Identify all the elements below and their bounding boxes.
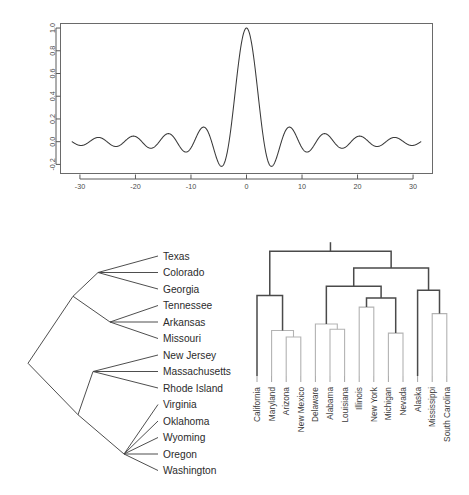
dendrogram-link (359, 307, 374, 376)
phylogram-internal-branch (78, 415, 124, 454)
phylogram-tip-labels: TexasColoradoGeorgiaTennesseeArkansasMis… (163, 251, 231, 477)
phylogram-tip-branch (110, 322, 158, 339)
phylogram-branches (28, 256, 158, 471)
dendrogram-leaf-label: Arizona (281, 387, 291, 416)
phylogram-tip-label: Virginia (163, 399, 197, 410)
phylogram-tip-label: New Jersey (163, 350, 217, 361)
dendrogram-leaf-label: Michigan (383, 387, 393, 421)
sinc-x-axis: -30-20-100102030 (75, 175, 417, 191)
sinc-x-tick-label: 20 (354, 182, 362, 191)
sinc-y-axis: -0.20.00.20.40.60.81.0 (48, 23, 61, 171)
dendrogram-leaf-label: Louisiana (340, 387, 350, 423)
dendrogram-link (418, 290, 440, 376)
phylogram-tip-label: Wyoming (163, 432, 206, 443)
dendrogram-leaf-label: Illinois (354, 387, 364, 410)
phylogram-tip-label: Oklahoma (163, 416, 210, 427)
sinc-plot-svg: -0.20.00.20.40.60.81.0 -30-20-100102030 (0, 0, 469, 215)
phylogram-internal-branch (73, 296, 110, 322)
phylogram-tip-label: Rhode Island (163, 383, 223, 394)
phylogram-tip-label: Tennessee (163, 300, 213, 311)
dendrogram-link (330, 329, 345, 376)
dendrogram-leaf-label: Nevada (398, 387, 408, 416)
phylogram-internal-branch (28, 296, 73, 363)
dendrogram-leaf-label: Alaska (413, 387, 423, 412)
dendrogram-panel: CaliforniaMarylandArizonaNew MexicoDelaw… (235, 228, 469, 495)
figure-canvas: -0.20.00.20.40.60.81.0 -30-20-100102030 … (0, 0, 469, 495)
sinc-plot-panel: -0.20.00.20.40.60.81.0 -30-20-100102030 (0, 0, 469, 215)
dendrogram-leaf-label: California (252, 387, 262, 422)
dendrogram-link (388, 333, 403, 376)
dendrogram-leaf-labels: CaliforniaMarylandArizonaNew MexicoDelaw… (252, 386, 452, 442)
phylogram-internal-branch (28, 363, 78, 415)
dendrogram-links (257, 242, 447, 376)
phylogram-tip-branch (98, 256, 158, 273)
sinc-curve (72, 28, 421, 166)
sinc-x-tick-label: 0 (245, 182, 249, 191)
phylogram-internal-branch (73, 273, 98, 297)
dendrogram-link (432, 314, 447, 376)
dendrogram-link (270, 251, 391, 295)
phylogram-tip-label: Texas (163, 251, 190, 262)
phylogram-internal-branch (78, 372, 93, 415)
sinc-x-tick-label: -30 (75, 182, 85, 191)
sinc-x-tick-label: 30 (409, 182, 417, 191)
dendrogram-link (367, 298, 396, 333)
phylogram-tip-label: Arkansas (163, 317, 205, 328)
dendrogram-leaf-label: New York (369, 386, 379, 422)
phylogram-tip-label: Oregon (163, 449, 197, 460)
phylogram-tip-branch (93, 355, 158, 372)
phylogram-tip-label: Washington (163, 465, 216, 476)
sinc-x-tick-label: -10 (186, 182, 196, 191)
sinc-x-tick-label: 10 (298, 182, 306, 191)
phylogram-tip-branch (98, 273, 158, 290)
dendrogram-link (257, 295, 283, 376)
dendrogram-leaf-label: Mississippi (427, 387, 437, 427)
sinc-x-tick-label: -20 (130, 182, 140, 191)
dendrogram-link (315, 324, 337, 376)
dendrogram-link (286, 337, 301, 376)
sinc-plot-frame (61, 24, 433, 174)
dendrogram-link (326, 286, 381, 324)
phylogram-panel: TexasColoradoGeorgiaTennesseeArkansasMis… (0, 228, 240, 495)
phylogram-tip-branch (110, 306, 158, 323)
dendrogram-leaf-label: South Carolina (442, 387, 452, 442)
dendrogram-svg: CaliforniaMarylandArizonaNew MexicoDelaw… (235, 228, 469, 495)
phylogram-tip-branch (124, 421, 158, 454)
phylogram-tip-label: Colorado (163, 267, 205, 278)
dendrogram-leaf-label: Delaware (310, 387, 320, 422)
phylogram-tip-label: Georgia (163, 284, 200, 295)
dendrogram-leaf-label: New Mexico (296, 387, 306, 433)
phylogram-tip-branch (93, 372, 158, 389)
dendrogram-leaf-label: Maryland (267, 387, 277, 422)
dendrogram-leaf-label: Alabama (325, 387, 335, 420)
dendrogram-leaf-ticks (257, 376, 447, 382)
phylogram-tip-branch (124, 454, 158, 471)
phylogram-svg: TexasColoradoGeorgiaTennesseeArkansasMis… (0, 228, 240, 495)
phylogram-tip-label: Massachusetts (163, 366, 231, 377)
phylogram-tip-branch (124, 405, 158, 455)
phylogram-tip-label: Missouri (163, 333, 201, 344)
